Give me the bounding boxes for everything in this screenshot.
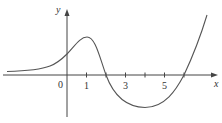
function-curve	[7, 15, 207, 108]
y-axis-arrow-icon	[65, 9, 70, 16]
x-axis-label: x	[214, 79, 218, 89]
tick-label-1: 1	[84, 81, 89, 91]
y-axis-label: y	[56, 5, 60, 15]
chart-canvas	[0, 0, 222, 123]
tick-label-0: 0	[58, 80, 63, 90]
x-axis-arrow-icon	[211, 73, 218, 78]
tick-label-3: 3	[123, 81, 128, 91]
tick-label-5: 5	[162, 81, 167, 91]
